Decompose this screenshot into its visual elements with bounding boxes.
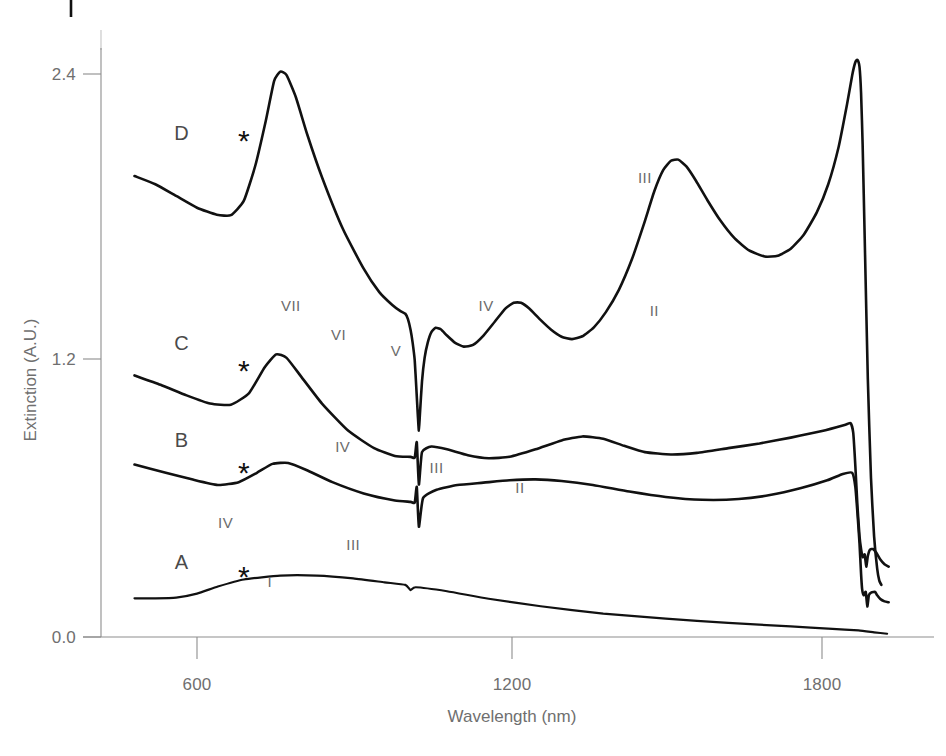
peak-label-D-IV: IV <box>479 297 494 314</box>
curve-label-D: D <box>174 122 188 144</box>
y-axis-ticks <box>83 74 101 637</box>
x-tick-labels: 600 1200 1800 <box>183 675 842 694</box>
peak-label-C-IV: IV <box>335 438 350 455</box>
peak-labels: IIVIIIIIIVIIIIIVIIVIVIVIII <box>218 169 659 589</box>
asterisk-marker-A: * <box>238 560 250 593</box>
y-tick-label-0.0: 0.0 <box>52 628 76 647</box>
asterisk-marker-B: * <box>238 456 250 489</box>
peak-label-C-III: III <box>430 459 444 476</box>
y-tick-label-1.2: 1.2 <box>52 350 76 369</box>
y-tick-label-2.4: 2.4 <box>52 65 76 84</box>
curve-label-C: C <box>174 332 188 354</box>
x-axis-ticks <box>197 637 822 659</box>
asterisk-marker-D: * <box>238 124 250 157</box>
asterisk-markers: **** <box>238 124 250 592</box>
peak-label-B-II: II <box>515 479 524 496</box>
peak-label-B-IV: IV <box>218 514 233 531</box>
y-tick-labels: 2.4 1.2 0.0 <box>52 65 76 647</box>
x-tick-label-600: 600 <box>183 675 212 694</box>
x-axis-title: Wavelength (nm) <box>448 707 577 726</box>
axes <box>83 48 934 637</box>
peak-label-C-II: II <box>650 302 659 319</box>
asterisk-marker-C: * <box>238 354 250 387</box>
curve-label-A: A <box>175 551 189 573</box>
x-tick-label-1200: 1200 <box>493 675 532 694</box>
spectra-figure: 2.4 1.2 0.0 600 1200 1800 Wavelength (nm… <box>0 0 946 756</box>
crop-marks <box>71 0 101 50</box>
peak-label-A-I: I <box>268 573 273 590</box>
peak-label-D-III: III <box>638 169 652 186</box>
peak-label-B-III: III <box>346 536 360 553</box>
x-tick-label-1800: 1800 <box>803 675 842 694</box>
curve-labels: ABCD <box>174 122 189 573</box>
peak-label-D-V: V <box>391 342 402 359</box>
curve-label-B: B <box>175 429 188 451</box>
peak-label-D-VI: VI <box>331 326 346 343</box>
y-axis-title: Extinction (A.U.) <box>21 319 40 442</box>
spectra-plot: 2.4 1.2 0.0 600 1200 1800 Wavelength (nm… <box>0 0 946 756</box>
peak-label-D-VII: VII <box>281 297 301 314</box>
